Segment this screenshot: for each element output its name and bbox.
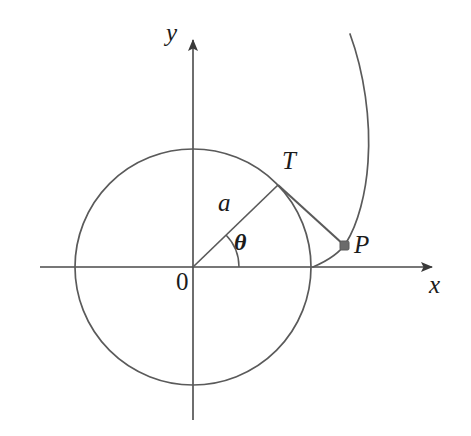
- involute-figure: y x 0 a θ T P: [0, 0, 471, 436]
- tangent-segment-TP: [278, 185, 344, 245]
- y-axis-label: y: [166, 20, 177, 45]
- radius-label-a: a: [218, 190, 231, 215]
- x-axis-label: x: [429, 272, 440, 297]
- point-label-P: P: [354, 232, 369, 257]
- point-label-T: T: [282, 148, 296, 173]
- theta-angle-label: θ: [234, 230, 246, 254]
- figure-canvas: [0, 0, 471, 436]
- point-marker-P: [340, 241, 349, 250]
- origin-label: 0: [176, 269, 189, 294]
